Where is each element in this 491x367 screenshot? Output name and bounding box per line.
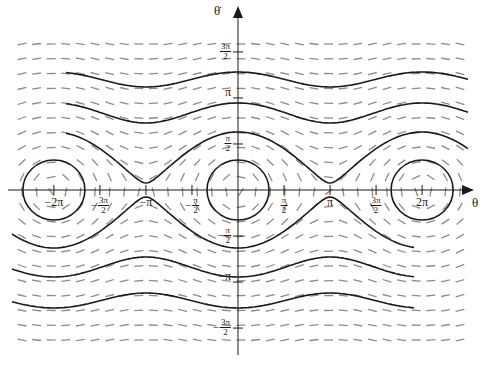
slope-dash xyxy=(32,340,41,341)
slope-dash xyxy=(339,58,348,59)
slope-dash xyxy=(456,309,465,311)
slope-dash xyxy=(34,174,40,181)
slope-dash xyxy=(61,295,70,296)
slope-dash xyxy=(253,174,259,181)
slope-dash xyxy=(207,102,216,104)
slope-dash xyxy=(91,73,100,75)
slope-dash xyxy=(310,280,319,281)
slope-dash xyxy=(383,309,392,311)
slope-dash xyxy=(456,324,465,326)
slope-dash xyxy=(310,310,319,311)
slope-dash xyxy=(105,280,114,283)
slope-dash xyxy=(32,250,41,252)
slope-dash xyxy=(368,73,377,75)
slope-dash xyxy=(251,265,260,267)
slope-dash xyxy=(76,146,84,150)
slope-dash xyxy=(412,236,421,237)
slope-dash xyxy=(106,131,114,135)
slope-dash xyxy=(222,117,231,118)
slope-dash xyxy=(149,118,158,119)
slope-dash xyxy=(193,309,202,311)
slope-dash xyxy=(194,159,200,166)
slope-dash xyxy=(456,249,464,253)
slope-dash xyxy=(120,219,128,224)
slope-dash xyxy=(383,145,391,150)
slope-dash xyxy=(76,102,85,104)
slope-dash xyxy=(397,58,406,59)
slope-dash xyxy=(460,188,461,197)
slope-dash xyxy=(32,88,41,89)
slope-dash xyxy=(61,44,70,45)
slope-dash xyxy=(281,87,290,89)
slope-dash xyxy=(456,264,464,267)
slope-dash xyxy=(149,103,158,104)
slope-dash xyxy=(124,188,125,197)
slope-dash xyxy=(339,325,348,326)
trajectory-upper xyxy=(66,132,468,183)
slope-dash xyxy=(18,280,27,282)
slope-dash xyxy=(47,176,56,178)
slope-dash xyxy=(19,219,26,225)
slope-dash xyxy=(76,58,85,60)
slope-dash xyxy=(357,188,358,197)
slope-dash xyxy=(19,159,26,165)
slope-dash xyxy=(76,324,85,326)
slope-dash xyxy=(266,295,275,297)
slope-dash xyxy=(208,265,217,268)
slope-dash xyxy=(353,310,362,312)
slope-dash xyxy=(441,117,450,120)
slope-dash xyxy=(76,250,84,253)
slope-dash xyxy=(397,88,406,90)
slope-dash xyxy=(427,220,436,222)
slope-dash xyxy=(354,145,362,149)
slope-dash xyxy=(281,294,290,296)
slope-dash xyxy=(266,58,275,60)
slope-dash xyxy=(208,234,216,238)
slope-dash xyxy=(91,294,100,296)
slope-dash xyxy=(310,146,318,149)
slope-dash xyxy=(222,250,231,252)
slope-dash xyxy=(426,310,435,311)
slope-dash xyxy=(251,340,260,341)
slope-dash xyxy=(441,325,450,326)
tick-label: −π xyxy=(218,270,231,282)
slope-dash xyxy=(18,43,27,45)
slope-dash xyxy=(412,266,421,267)
slope-dash xyxy=(398,160,405,165)
slope-dash xyxy=(310,44,319,45)
slope-dash xyxy=(134,251,143,252)
slope-dash xyxy=(397,117,406,119)
slope-dash xyxy=(134,88,143,89)
slope-dash xyxy=(310,160,318,164)
slope-dash xyxy=(47,147,56,148)
slope-dash xyxy=(179,249,187,253)
slope-dash xyxy=(222,220,230,223)
slope-dash xyxy=(164,73,173,75)
slope-dash xyxy=(282,159,288,166)
slope-dash xyxy=(399,203,405,210)
slope-dash xyxy=(266,309,275,311)
slope-dash xyxy=(208,219,215,224)
slope-dash xyxy=(134,103,143,104)
slope-dash xyxy=(339,117,348,119)
slope-dash xyxy=(283,173,287,181)
slope-dash xyxy=(412,281,421,282)
slope-dash xyxy=(339,220,347,223)
slope-dash xyxy=(77,160,84,166)
slope-dash xyxy=(223,174,230,180)
slope-dash xyxy=(339,146,348,149)
slope-dash xyxy=(152,188,154,197)
slope-dash xyxy=(120,73,129,75)
slope-dash xyxy=(356,173,360,181)
slope-dash xyxy=(164,88,173,90)
slope-dash xyxy=(178,43,187,45)
slope-dash xyxy=(295,73,304,75)
slope-dash xyxy=(193,339,202,341)
slope-dash xyxy=(397,235,405,238)
slope-dash xyxy=(383,280,392,283)
slope-dash xyxy=(251,146,259,149)
slope-dash xyxy=(32,58,41,59)
slope-dash xyxy=(457,219,464,225)
slope-dash xyxy=(134,73,143,74)
slope-dash xyxy=(134,118,143,119)
